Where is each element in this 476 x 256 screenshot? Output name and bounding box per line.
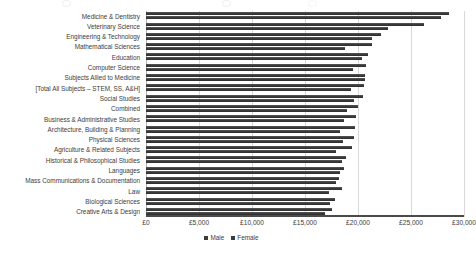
category-label: Mass Communications & Documentation — [0, 177, 140, 184]
category-label: Biological Sciences — [0, 198, 140, 205]
bar-group — [146, 136, 464, 146]
bar-female — [146, 150, 336, 153]
bar-group — [146, 198, 464, 208]
bar-female — [146, 88, 351, 91]
plot-area — [146, 11, 464, 217]
bar-female — [146, 78, 365, 81]
x-tick-label-10000: £10,000 — [240, 219, 264, 227]
category-label: Creative Arts & Design — [0, 208, 140, 215]
bar-group — [146, 53, 464, 63]
bar-group — [146, 33, 464, 43]
bar-male — [146, 115, 356, 118]
bar-male — [146, 74, 365, 77]
x-tick-label-15000: £15,000 — [293, 219, 317, 227]
chart-legend: MaleFemale — [0, 234, 463, 241]
bar-male — [146, 167, 344, 170]
bar-female — [146, 16, 441, 19]
category-label: [Total All Subjects – STEM, SS, A&H] — [0, 85, 140, 92]
bar-male — [146, 12, 449, 15]
bar-group — [146, 74, 464, 84]
bar-group — [146, 95, 464, 105]
bar-male — [146, 187, 342, 190]
bar-female — [146, 181, 336, 184]
bar-group — [146, 167, 464, 177]
category-label: Law — [0, 188, 140, 195]
bar-female — [146, 109, 347, 112]
x-tick-label-20000: £20,000 — [346, 219, 370, 227]
bar-female — [146, 171, 340, 174]
legend-item-female[interactable]: Female — [231, 234, 258, 241]
bar-female — [146, 99, 354, 102]
category-label: Agriculture & Related Subjects — [0, 146, 140, 153]
legend-swatch-icon — [231, 236, 235, 240]
top-edge-artifact-left — [62, 0, 71, 7]
top-edge-artifact-center — [222, 0, 231, 7]
gridline-30000 — [464, 11, 465, 217]
bar-male — [146, 126, 355, 129]
legend-label: Female — [237, 234, 258, 241]
bar-rows — [146, 11, 464, 217]
category-label: Veterinary Science — [0, 23, 140, 30]
x-tick-label-0: £0 — [142, 219, 149, 227]
category-label: Education — [0, 54, 140, 61]
bar-male — [146, 136, 354, 139]
legend-swatch-icon — [204, 236, 208, 240]
bar-female — [146, 160, 342, 163]
bar-group — [146, 187, 464, 197]
bar-male — [146, 43, 372, 46]
bar-group — [146, 105, 464, 115]
bar-female — [146, 68, 353, 71]
category-label: Architecture, Building & Planning — [0, 126, 140, 133]
bar-male — [146, 177, 339, 180]
category-label: Social Studies — [0, 95, 140, 102]
bar-male — [146, 146, 352, 149]
bar-group — [146, 84, 464, 94]
bar-male — [146, 208, 332, 211]
category-label: Historical & Philosophical Studies — [0, 157, 140, 164]
bar-female — [146, 202, 330, 205]
bar-group — [146, 12, 464, 22]
bar-female — [146, 27, 388, 30]
bar-group — [146, 177, 464, 187]
bar-group — [146, 43, 464, 53]
top-edge-artifact-right — [308, 0, 317, 7]
x-axis-tick-labels: £0£5,000£10,000£15,000£20,000£25,000£30,… — [146, 219, 464, 231]
bar-male — [146, 53, 368, 56]
category-axis-labels: Medicine & DentistryVeterinary ScienceEn… — [0, 11, 143, 217]
bar-male — [146, 105, 358, 108]
bar-male — [146, 198, 335, 201]
x-tick-label-5000: £5,000 — [189, 219, 209, 227]
bar-female — [146, 130, 340, 133]
category-label: Languages — [0, 167, 140, 174]
legend-label: Male — [210, 234, 224, 241]
category-label: Business & Administrative Studies — [0, 116, 140, 123]
x-axis-line — [146, 215, 464, 217]
category-label: Subjects Allied to Medicine — [0, 74, 140, 81]
bar-female — [146, 119, 344, 122]
bar-female — [146, 140, 343, 143]
category-label: Medicine & Dentistry — [0, 13, 140, 20]
bar-female — [146, 47, 345, 50]
bar-male — [146, 84, 364, 87]
bar-male — [146, 64, 366, 67]
bar-female — [146, 37, 372, 40]
bar-female — [146, 191, 329, 194]
category-label: Physical Sciences — [0, 136, 140, 143]
bar-group — [146, 156, 464, 166]
bar-group — [146, 146, 464, 156]
bar-group — [146, 64, 464, 74]
bar-group — [146, 23, 464, 33]
category-label: Combined — [0, 105, 140, 112]
category-label: Computer Science — [0, 64, 140, 71]
bar-group — [146, 126, 464, 136]
bar-male — [146, 95, 363, 98]
bar-group — [146, 115, 464, 125]
category-label: Mathematical Sciences — [0, 43, 140, 50]
x-tick-label-30000: £30,000 — [452, 219, 476, 227]
bar-female — [146, 57, 362, 60]
legend-item-male[interactable]: Male — [204, 234, 224, 241]
bar-male — [146, 156, 346, 159]
x-tick-label-25000: £25,000 — [399, 219, 423, 227]
bar-male — [146, 33, 381, 36]
